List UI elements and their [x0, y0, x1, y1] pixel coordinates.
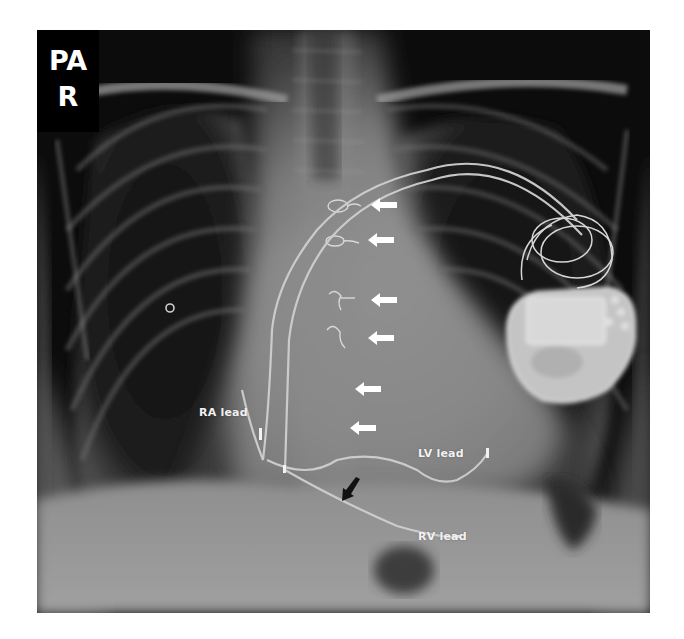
- white-arrow-icon: [368, 330, 394, 346]
- ra-lead-label: RA lead: [199, 406, 248, 419]
- white-arrow-icon: [371, 197, 397, 213]
- black-arrow-icon: [340, 476, 360, 502]
- side-marker-label: R: [37, 80, 99, 116]
- lv-lead-label: LV lead: [418, 447, 464, 460]
- white-arrow-icon: [368, 232, 394, 248]
- view-orientation-badge: PA R: [37, 30, 99, 132]
- white-arrow-icon: [350, 420, 376, 436]
- chest-xray-image: [37, 30, 650, 613]
- white-arrow-icon: [355, 381, 381, 397]
- projection-label: PA: [37, 44, 99, 80]
- rv-lead-label: RV lead: [418, 530, 467, 543]
- xray-illustration: [37, 30, 650, 613]
- white-arrow-icon: [371, 292, 397, 308]
